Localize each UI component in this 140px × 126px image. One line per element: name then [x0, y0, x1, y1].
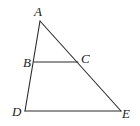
segment-AE [40, 21, 121, 111]
point-label-b: B [23, 55, 31, 70]
geometry-diagram: ABCDE [0, 0, 140, 126]
point-label-a: A [33, 4, 42, 19]
segments-group [25, 21, 121, 111]
point-label-d: D [11, 104, 22, 119]
point-label-e: E [121, 106, 130, 121]
diagram-svg: ABCDE [0, 0, 140, 126]
point-label-c: C [81, 51, 90, 66]
